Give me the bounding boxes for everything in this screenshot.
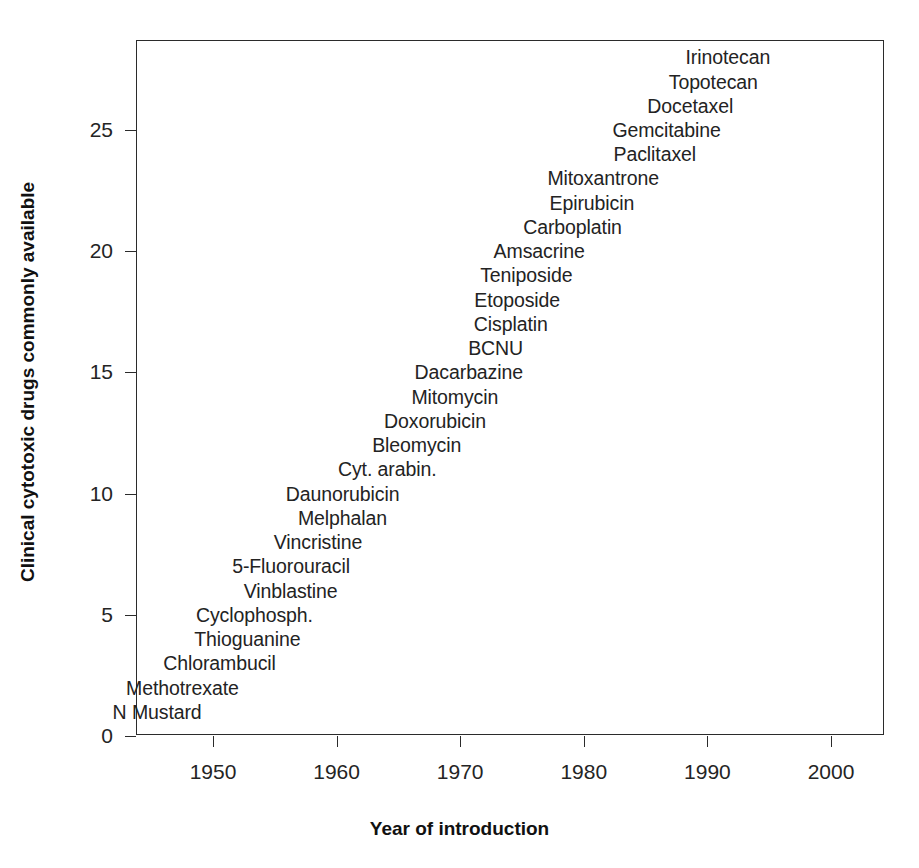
drug-label: Thioguanine bbox=[194, 630, 300, 650]
y-tick-mark bbox=[125, 130, 136, 131]
y-tick-label: 20 bbox=[55, 239, 113, 263]
drug-label: Cisplatin bbox=[474, 315, 548, 335]
x-tick-label: 1990 bbox=[684, 760, 731, 784]
drug-label: Melphalan bbox=[298, 509, 387, 529]
drug-label: Mitomycin bbox=[411, 388, 498, 408]
drug-label: Chlorambucil bbox=[163, 655, 276, 675]
drug-label: N Mustard bbox=[113, 703, 202, 723]
y-tick-label: 25 bbox=[55, 118, 113, 142]
drug-label: Vincristine bbox=[274, 533, 363, 553]
x-tick-label: 1970 bbox=[437, 760, 484, 784]
drug-label: Carboplatin bbox=[523, 218, 622, 238]
drug-label: Etoposide bbox=[474, 291, 560, 311]
y-tick-mark bbox=[125, 372, 136, 373]
drug-label: Vinblastine bbox=[244, 582, 338, 602]
y-tick-label: 10 bbox=[55, 482, 113, 506]
x-tick-mark bbox=[460, 736, 461, 747]
drug-label: Cyclophosph. bbox=[196, 606, 313, 626]
y-axis-title: Clinical cytotoxic drugs commonly availa… bbox=[17, 102, 39, 662]
drug-label: 5-Fluorouracil bbox=[232, 558, 350, 578]
y-tick-label: 15 bbox=[55, 360, 113, 384]
drug-label: Dacarbazine bbox=[415, 364, 523, 384]
x-tick-mark bbox=[584, 736, 585, 747]
drug-label: Mitoxantrone bbox=[547, 170, 659, 190]
drug-label: Cyt. arabin. bbox=[338, 461, 437, 481]
drug-label: Gemcitabine bbox=[612, 121, 720, 141]
y-tick-label: 5 bbox=[55, 603, 113, 627]
drug-label: Teniposide bbox=[480, 267, 572, 287]
drug-label: Amsacrine bbox=[494, 242, 585, 262]
y-tick-label: 0 bbox=[55, 724, 113, 748]
x-tick-mark bbox=[707, 736, 708, 747]
drug-label: Bleomycin bbox=[372, 436, 461, 456]
drug-label: Methotrexate bbox=[126, 679, 239, 699]
drug-label: Daunorubicin bbox=[286, 485, 400, 505]
x-tick-mark bbox=[337, 736, 338, 747]
chart-page: 0510152025 195019601970198019902000 N Mu… bbox=[0, 0, 919, 868]
y-tick-mark bbox=[125, 494, 136, 495]
x-tick-label: 2000 bbox=[808, 760, 855, 784]
x-tick-label: 1980 bbox=[560, 760, 607, 784]
drug-label: Docetaxel bbox=[647, 97, 733, 117]
drug-label: Topotecan bbox=[669, 73, 758, 93]
plot-area: N MustardMethotrexateChlorambucilThiogua… bbox=[136, 40, 884, 735]
x-tick-label: 1950 bbox=[190, 760, 237, 784]
drug-label: Epirubicin bbox=[550, 194, 635, 214]
x-tick-label: 1960 bbox=[313, 760, 360, 784]
x-axis-title: Year of introduction bbox=[0, 818, 919, 840]
drug-label: Doxorubicin bbox=[384, 412, 486, 432]
drug-label: BCNU bbox=[468, 339, 523, 359]
drug-label: Irinotecan bbox=[686, 49, 771, 69]
x-tick-mark bbox=[213, 736, 214, 747]
y-tick-mark bbox=[125, 251, 136, 252]
drug-label: Paclitaxel bbox=[614, 145, 696, 165]
y-tick-mark bbox=[125, 615, 136, 616]
y-tick-mark bbox=[125, 736, 136, 737]
x-tick-mark bbox=[831, 736, 832, 747]
